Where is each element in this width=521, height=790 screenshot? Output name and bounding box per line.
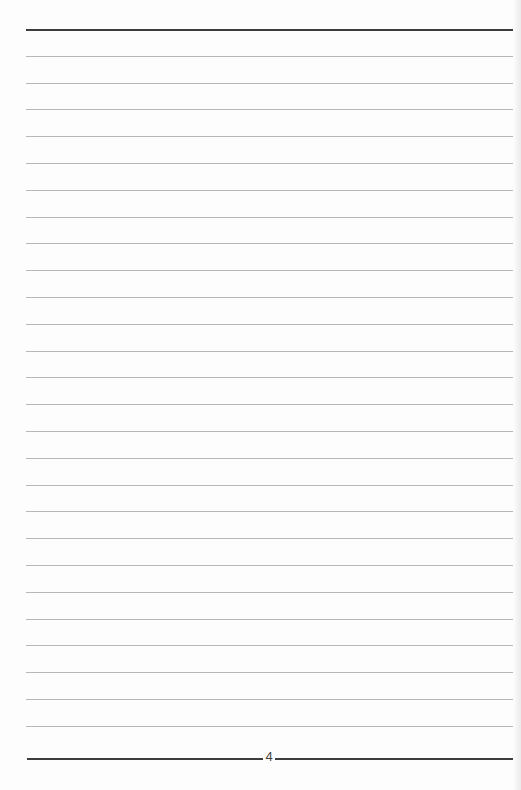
ruled-line — [26, 297, 513, 298]
ruled-line — [26, 243, 513, 244]
ruled-line — [26, 538, 513, 539]
page-edge-shadow — [513, 0, 521, 790]
bottom-rule-left-segment — [27, 758, 263, 760]
bottom-rule-right-segment — [275, 758, 513, 760]
page-number: 4 — [263, 749, 275, 765]
ruled-line — [26, 619, 513, 620]
ruled-line — [26, 83, 513, 84]
ruled-line — [26, 511, 513, 512]
ruled-line — [26, 645, 513, 646]
ruled-line — [26, 190, 513, 191]
ruled-line — [26, 565, 513, 566]
ruled-line — [26, 217, 513, 218]
ruled-line — [26, 109, 513, 110]
ruled-line — [26, 458, 513, 459]
ruled-line — [26, 377, 513, 378]
ruled-line — [26, 56, 513, 57]
ruled-line — [26, 270, 513, 271]
bottom-margin-rule: 4 — [27, 752, 513, 766]
ruled-line — [26, 404, 513, 405]
ruled-line — [26, 163, 513, 164]
ruled-line — [26, 351, 513, 352]
ruled-line — [26, 672, 513, 673]
ruled-line — [26, 485, 513, 486]
ruled-line — [26, 431, 513, 432]
ruled-line — [26, 136, 513, 137]
ruled-line — [26, 324, 513, 325]
ruled-line — [26, 726, 513, 727]
top-margin-rule — [26, 29, 513, 31]
notebook-page: 4 — [0, 0, 521, 790]
ruled-line — [26, 592, 513, 593]
ruled-line — [26, 699, 513, 700]
